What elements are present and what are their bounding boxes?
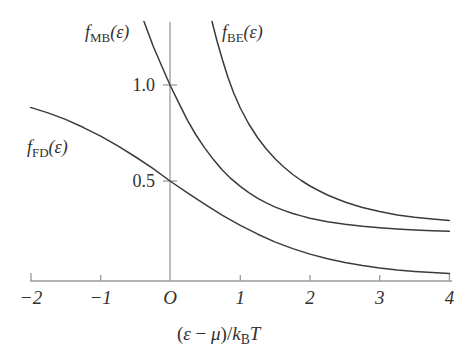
x-tick-label-4: 4 (429, 288, 469, 307)
y-tick-label-1.0: 1.0 (105, 76, 155, 94)
fd-label-arg: (ε) (49, 137, 68, 157)
mb-label-arg: (ε) (110, 22, 129, 42)
xaxis-mu: μ (211, 323, 221, 344)
x-tick-label--2: −2 (11, 288, 51, 307)
x-axis-ticks (31, 273, 449, 281)
curve-bose-einstein (212, 22, 449, 221)
curve-label-maxwell-boltzmann: fMB(ε) (85, 23, 129, 45)
xaxis-k: k (232, 323, 240, 344)
xaxis-k-sub: B (241, 332, 250, 347)
xaxis-minus: − (191, 323, 211, 344)
xaxis-close-paren-slash: )/ (221, 323, 233, 344)
be-label-arg: (ε) (244, 22, 263, 42)
fd-label-sub: FD (32, 145, 49, 160)
distribution-function-chart: 1.0 0.5 −2 −1 O 1 2 3 4 fMB(ε) fBE(ε) fF… (0, 0, 472, 358)
curve-fermi-dirac (31, 107, 450, 273)
xaxis-epsilon: ε (183, 323, 191, 344)
mb-label-sub: MB (90, 30, 110, 45)
xaxis-T: T (250, 323, 261, 344)
x-tick-label-1: 1 (220, 288, 260, 307)
x-tick-label-0: O (150, 288, 190, 307)
x-axis-title: (ε − μ)/kBT (177, 324, 260, 347)
curve-maxwell-boltzmann (144, 22, 449, 232)
be-label-sub: BE (227, 30, 244, 45)
x-tick-label-3: 3 (360, 288, 400, 307)
y-tick-label-0.5: 0.5 (105, 172, 155, 190)
x-tick-label--1: −1 (81, 288, 121, 307)
curve-label-fermi-dirac: fFD(ε) (27, 138, 68, 160)
curve-label-bose-einstein: fBE(ε) (222, 23, 263, 45)
x-tick-label-2: 2 (290, 288, 330, 307)
